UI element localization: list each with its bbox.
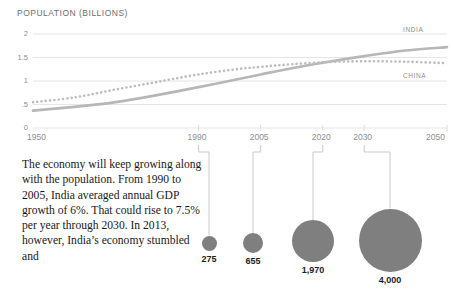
x-axis-tick-1950: 1950	[27, 132, 46, 142]
x-axis-tick-2020: 2020	[312, 132, 331, 142]
chart-svg	[0, 0, 453, 150]
x-axis-tick-2030: 2030	[353, 132, 372, 142]
series-label-india: INDIA	[403, 26, 423, 33]
series-line-india	[33, 47, 447, 110]
infographic-page: POPULATION (BILLIONS) 0.511.521950199020…	[0, 0, 453, 289]
callout-connector-2020	[313, 145, 323, 220]
y-axis-tick-1: 1	[8, 76, 28, 85]
y-axis-tick-2: 2	[8, 29, 28, 38]
y-axis-tick-1p5: 1.5	[8, 53, 28, 62]
series-label-china: CHINA	[403, 72, 426, 79]
bubble-2020	[292, 220, 334, 262]
x-axis-tick-2050: 2050	[426, 132, 445, 142]
x-axis-tick-2005: 2005	[250, 132, 269, 142]
x-axis-tick-1990: 1990	[188, 132, 207, 142]
bubble-value-2005: 655	[245, 256, 260, 266]
series-line-china	[33, 61, 447, 102]
article-paragraph: The economy will keep growing along with…	[22, 157, 205, 264]
bubble-2030	[359, 209, 422, 272]
bubble-2005	[243, 233, 263, 253]
bubble-value-2020: 1,970	[302, 265, 325, 275]
population-chart: 0.511.52195019902005202020302050INDIACHI…	[0, 0, 453, 150]
y-axis-tick-0: 0	[8, 123, 28, 132]
y-axis-tick-p5: .5	[8, 100, 28, 109]
bubble-value-2030: 4,000	[379, 275, 402, 285]
callout-connector-2030	[364, 145, 390, 209]
callout-connector-2005	[253, 145, 261, 233]
